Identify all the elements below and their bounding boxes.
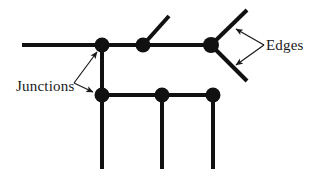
junction-node bbox=[155, 88, 170, 103]
leader-junctions-lower-arrow bbox=[74, 83, 93, 92]
junctions-label: Junctions bbox=[16, 78, 74, 94]
leader-edges-lower-arrow bbox=[236, 45, 264, 65]
diagram-canvas: Junctions Edges bbox=[0, 0, 309, 176]
junction-node bbox=[136, 38, 151, 53]
junction-node bbox=[95, 38, 110, 53]
graph-diagram: Junctions Edges bbox=[0, 0, 309, 176]
junction-node bbox=[203, 37, 219, 53]
junction-node bbox=[95, 88, 110, 103]
junction-node bbox=[206, 88, 221, 103]
leader-edges-upper-arrow bbox=[236, 29, 264, 45]
edges-label: Edges bbox=[266, 37, 304, 53]
leader-junctions-upper-arrow bbox=[74, 52, 97, 83]
